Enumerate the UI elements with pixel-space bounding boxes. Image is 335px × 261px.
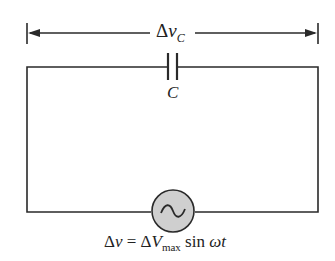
wire-right <box>178 67 318 212</box>
wire-left <box>27 67 168 212</box>
source-equation: Δv = ΔVmax sin ωt <box>104 232 226 253</box>
arrowhead-right <box>305 29 317 37</box>
capacitor-voltage-label: ΔvC <box>152 20 189 46</box>
arrowhead-left <box>28 29 40 37</box>
capacitor-label: C <box>167 83 178 103</box>
ac-source-icon <box>152 190 194 232</box>
